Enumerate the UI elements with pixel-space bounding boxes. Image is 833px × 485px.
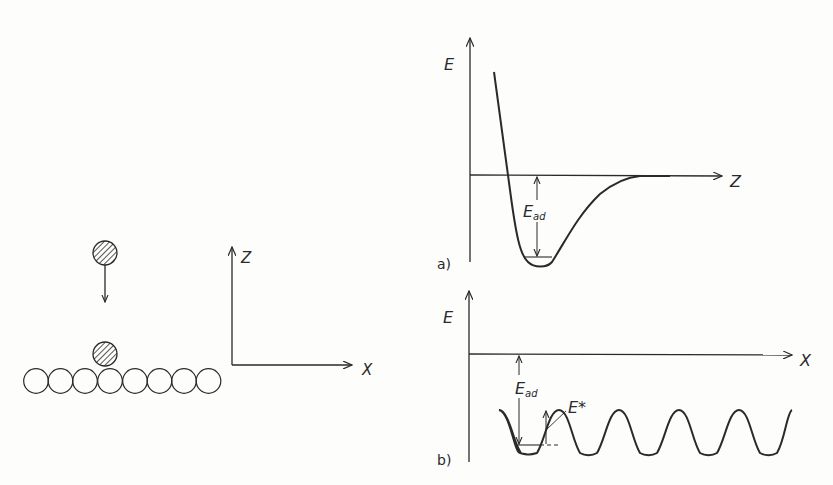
panel-b-corrugation: E X Ead E* b) [437,291,812,468]
diagram-canvas: Z X E Z Ead a) E X Ead E* b) [0,0,833,485]
panel-label-b: b) [437,452,451,468]
panel-label-a: a) [437,256,451,272]
x-axis-b [469,354,792,355]
adsorbed-adatom [93,342,117,366]
ead-label-a: Ead [523,202,546,222]
x-label-b: X [799,351,812,370]
energy-label-a: E [444,55,455,74]
adatom-approach-panel: Z X [24,241,373,393]
z-axis-label: Z [240,249,252,267]
barrier-label: E* [568,398,586,417]
z-label-a: Z [729,172,742,191]
x-axis-label: X [361,361,373,379]
periodic-potential-b [499,410,792,455]
incoming-adatom [93,241,117,265]
ead-label-b: Ead [515,379,538,399]
energy-label-b: E [443,308,454,327]
potential-curve-a [494,72,670,267]
adsorption-diagram: Z X E Z Ead a) E X Ead E* b) [0,0,833,485]
panel-a-potential-well: E Z Ead a) [437,38,742,272]
surface-atom-row [24,369,221,394]
